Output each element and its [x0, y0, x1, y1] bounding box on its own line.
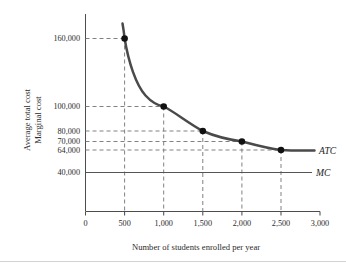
y-tick-label: 160,000 — [53, 34, 80, 43]
mc-label: MC — [315, 167, 331, 178]
x-tick-label: 1,500 — [194, 219, 212, 228]
chart-canvas: 160,000 100,000 80,000 70,000 64,000 40,… — [0, 0, 346, 267]
data-point — [121, 35, 128, 42]
x-tick-label: 2,000 — [233, 219, 251, 228]
data-point — [200, 128, 207, 135]
y-tick-label: 80,000 — [57, 127, 80, 136]
x-tick-label: 3,000 — [311, 219, 329, 228]
y-axis-tick-labels: 160,000 100,000 80,000 70,000 64,000 40,… — [53, 34, 80, 177]
y-tick-label: 64,000 — [57, 146, 80, 155]
x-axis-ticks — [86, 212, 321, 216]
x-tick-label: 500 — [118, 219, 130, 228]
data-point — [278, 147, 285, 154]
y-tick-label: 40,000 — [57, 168, 80, 177]
y-tick-label: 100,000 — [53, 102, 80, 111]
y-axis-title-line-1: Average total cost — [22, 88, 32, 150]
y-axis-title-line-2: Marginal cost — [33, 96, 43, 144]
x-tick-label: 1,000 — [154, 219, 172, 228]
x-tick-label: 2,500 — [272, 219, 290, 228]
data-point — [160, 103, 167, 110]
horizontal-guide-lines — [86, 39, 282, 151]
x-axis-tick-labels: 0 500 1,000 1,500 2,000 2,500 3,000 — [83, 219, 329, 228]
data-point — [239, 138, 246, 145]
x-tick-label: 0 — [83, 219, 87, 228]
vertical-guide-lines — [125, 39, 281, 212]
economics-cost-curve-figure: 160,000 100,000 80,000 70,000 64,000 40,… — [0, 0, 346, 267]
x-axis-title: Number of students enrolled per year — [132, 242, 260, 252]
atc-label: ATC — [318, 145, 337, 156]
